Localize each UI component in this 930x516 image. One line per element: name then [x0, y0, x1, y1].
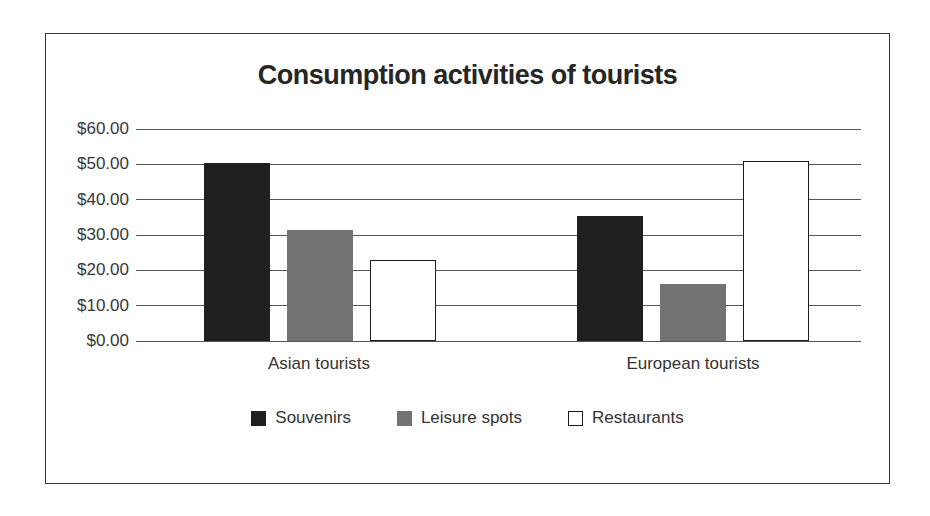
legend-swatch-souvenirs	[251, 411, 266, 426]
x-axis-label-european-tourists: European tourists	[543, 354, 843, 374]
legend-label-restaurants: Restaurants	[592, 408, 684, 428]
bar-leisure-spots-european-tourists	[660, 284, 726, 341]
bar-souvenirs-european-tourists	[577, 216, 643, 341]
y-tick-label-20: $20.00	[46, 260, 129, 280]
bar-leisure-spots-asian-tourists	[287, 230, 353, 341]
legend-item-souvenirs: Souvenirs	[251, 408, 351, 428]
legend-swatch-leisure-spots	[397, 411, 412, 426]
bar-restaurants-european-tourists	[743, 161, 809, 341]
legend-item-leisure-spots: Leisure spots	[397, 408, 522, 428]
legend-swatch-restaurants	[568, 411, 583, 426]
gridline-60	[136, 129, 861, 130]
page-background: Consumption activities of tourists $60.0…	[0, 0, 930, 516]
y-tick-label-30: $30.00	[46, 225, 129, 245]
y-tick-label-0: $0.00	[46, 331, 129, 351]
y-tick-label-40: $40.00	[46, 190, 129, 210]
bar-souvenirs-asian-tourists	[204, 163, 270, 341]
x-axis-label-asian-tourists: Asian tourists	[169, 354, 469, 374]
y-tick-label-60: $60.00	[46, 119, 129, 139]
bar-restaurants-asian-tourists	[370, 260, 436, 341]
legend: Souvenirs Leisure spots Restaurants	[46, 408, 889, 428]
y-tick-label-50: $50.00	[46, 154, 129, 174]
y-tick-label-10: $10.00	[46, 296, 129, 316]
legend-item-restaurants: Restaurants	[568, 408, 684, 428]
legend-label-leisure-spots: Leisure spots	[421, 408, 522, 428]
chart-frame: Consumption activities of tourists $60.0…	[45, 33, 890, 484]
legend-label-souvenirs: Souvenirs	[275, 408, 351, 428]
